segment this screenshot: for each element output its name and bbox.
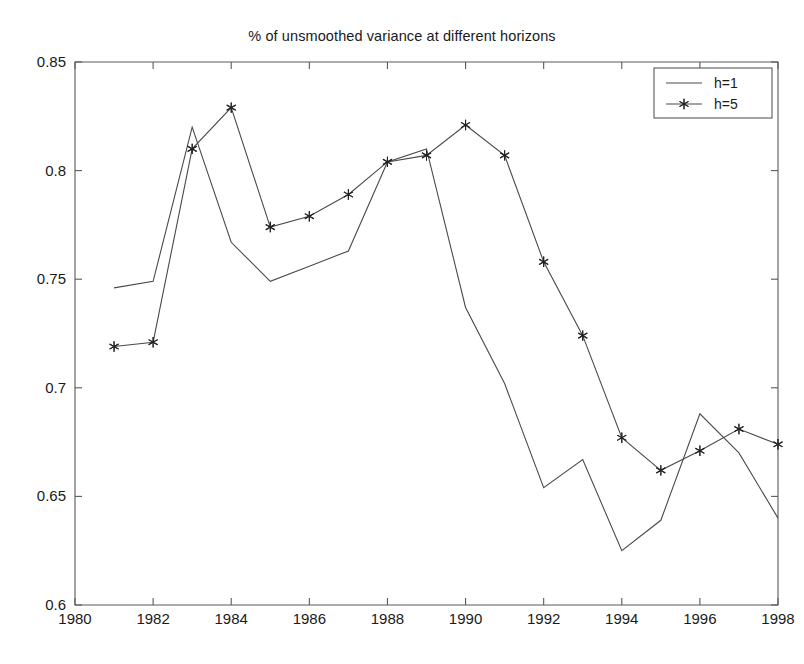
data-point-marker (695, 446, 704, 456)
data-point-marker (539, 257, 548, 267)
series-line-h1 (114, 127, 778, 551)
axis-frame (75, 62, 778, 605)
x-tick-label: 1984 (215, 610, 248, 627)
y-tick-label: 0.65 (37, 487, 66, 504)
data-point-marker (656, 465, 665, 475)
x-tick-label: 1992 (527, 610, 560, 627)
x-tick-label: 1986 (293, 610, 326, 627)
x-tick-label: 1990 (449, 610, 482, 627)
x-tick-label: 1982 (136, 610, 169, 627)
legend[interactable]: h=1h=5 (654, 68, 772, 118)
series-group (110, 102, 783, 550)
series-line-h5 (114, 108, 778, 471)
y-tick-label: 0.7 (45, 379, 66, 396)
data-point-marker (617, 433, 626, 443)
data-point-marker (266, 222, 275, 232)
legend-box (654, 68, 772, 118)
legend-label-h5[interactable]: h=5 (714, 96, 738, 112)
x-tick-label: 1980 (58, 610, 91, 627)
data-point-marker (344, 189, 353, 199)
data-point-marker (500, 150, 509, 160)
y-tick-label: 0.75 (37, 270, 66, 287)
y-tick-label: 0.85 (37, 53, 66, 70)
x-tick-label: 1994 (605, 610, 638, 627)
y-tick-label: 0.8 (45, 162, 66, 179)
data-point-marker (578, 330, 587, 340)
data-point-marker (461, 120, 470, 130)
data-point-marker (773, 439, 782, 449)
x-tick-label: 1998 (761, 610, 794, 627)
data-point-marker (305, 211, 314, 221)
legend-label-h1[interactable]: h=1 (714, 75, 738, 91)
x-tick-label: 1988 (371, 610, 404, 627)
x-tick-label: 1996 (683, 610, 716, 627)
chart-plot-area: 0.60.650.70.750.80.851980198219841986198… (0, 0, 804, 664)
figure-canvas: % of unsmoothed variance at different ho… (0, 0, 804, 664)
data-point-marker (734, 424, 743, 434)
